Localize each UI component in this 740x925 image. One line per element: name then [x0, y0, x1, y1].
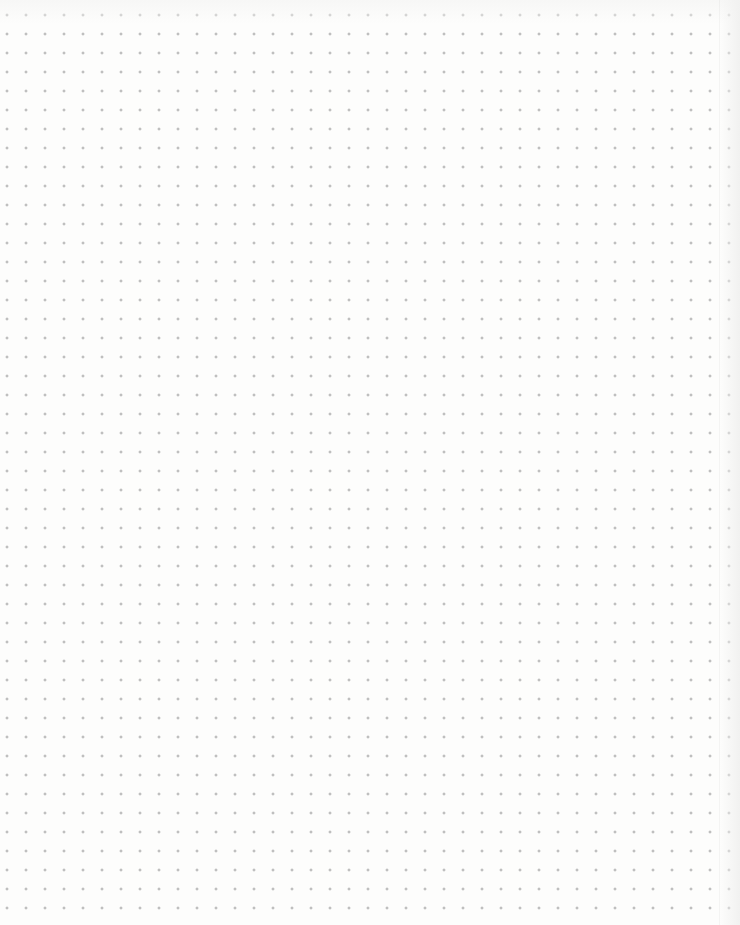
- dot-grid-paper: [0, 0, 740, 925]
- page-edge-line: [719, 0, 720, 925]
